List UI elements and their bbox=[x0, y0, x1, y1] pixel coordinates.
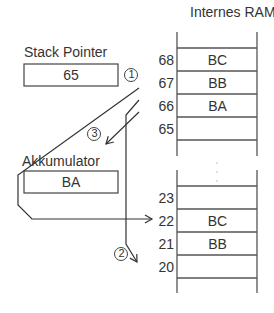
ram-address-68: 68 bbox=[152, 52, 174, 68]
step-1-label: 1 bbox=[124, 67, 139, 82]
ram-address-22: 22 bbox=[152, 213, 174, 229]
ram-cell-68: BC bbox=[178, 52, 257, 68]
stack-pointer-value: 65 bbox=[24, 67, 118, 83]
ram-address-23: 23 bbox=[152, 190, 174, 206]
stack-pointer-label: Stack Pointer bbox=[24, 44, 107, 60]
step-3-label: 3 bbox=[87, 126, 102, 141]
ram-cell-21: BB bbox=[178, 236, 257, 252]
ram-address-67: 67 bbox=[152, 75, 174, 91]
ram-address-20: 20 bbox=[152, 259, 174, 275]
ram-cell-22: BC bbox=[178, 213, 257, 229]
accumulator-value: BA bbox=[24, 174, 118, 190]
ram-address-65: 65 bbox=[152, 121, 174, 137]
ram-upper-block bbox=[177, 32, 257, 156]
stack-diagram: Internes RAM 68 BC 67 BB 66 BA 65 23 22 … bbox=[0, 0, 274, 313]
ram-title: Internes RAM bbox=[190, 4, 274, 20]
arrow-path-copy-to-21 bbox=[126, 100, 139, 262]
ram-cell-67: BB bbox=[178, 75, 257, 91]
ram-lower-block bbox=[177, 170, 257, 293]
ram-address-66: 66 bbox=[152, 98, 174, 114]
ellipsis-dots bbox=[216, 162, 218, 182]
accumulator-label: Akkumulator bbox=[22, 153, 100, 169]
arrow-path-pop-to-accumulator bbox=[106, 112, 139, 144]
step-2-label: 2 bbox=[114, 246, 129, 261]
ram-cell-66: BA bbox=[178, 98, 257, 114]
ram-address-21: 21 bbox=[152, 236, 174, 252]
